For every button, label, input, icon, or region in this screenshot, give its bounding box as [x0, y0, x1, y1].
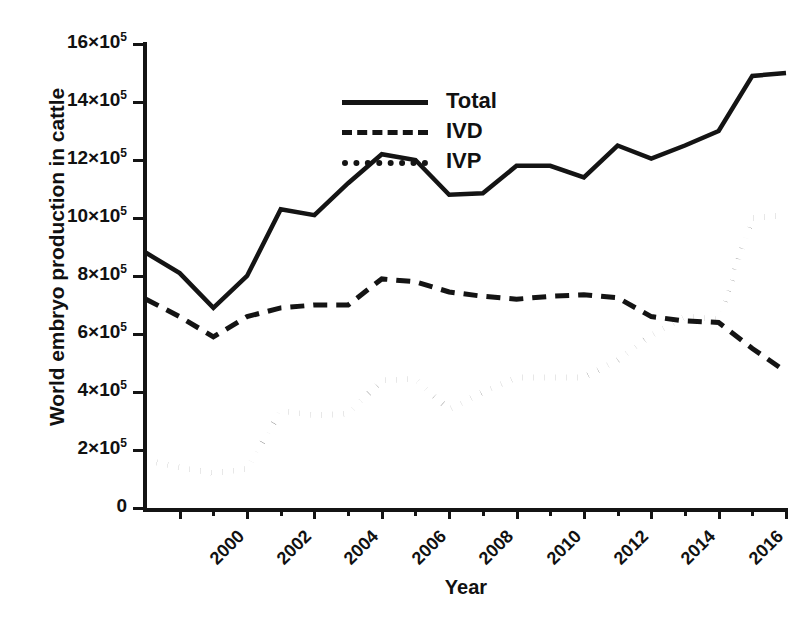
y-tick: 12×105: [133, 159, 144, 162]
y-tick-label: 14×105: [67, 90, 127, 109]
x-tick-minor: [280, 508, 283, 516]
y-tick-label: 16×105: [67, 32, 127, 51]
x-tick-label: 2006: [408, 526, 451, 569]
x-tick-major: [179, 508, 182, 519]
series-line-ivp: [146, 215, 786, 473]
x-tick-minor: [549, 508, 552, 516]
legend-swatch-solid-icon: [342, 100, 428, 105]
y-tick: 14×105: [133, 101, 144, 104]
x-tick-minor: [482, 508, 485, 516]
y-tick: 0: [133, 507, 144, 510]
x-tick-label: 2010: [542, 526, 585, 569]
x-tick-label: 2002: [273, 526, 316, 569]
legend-item-ivp[interactable]: IVP: [342, 148, 552, 178]
x-tick-label: 2008: [475, 526, 518, 569]
x-tick-major: [583, 508, 586, 519]
x-tick-major: [313, 508, 316, 519]
y-tick-label: 10×105: [67, 206, 127, 225]
y-tick-label: 2×105: [78, 438, 127, 457]
x-tick-major: [516, 508, 519, 519]
x-tick-label: 2016: [744, 526, 787, 569]
legend-item-total[interactable]: Total: [342, 88, 552, 118]
y-tick: 2×105: [133, 449, 144, 452]
legend-swatch-dashed-icon: [342, 130, 428, 135]
y-tick-label: 12×105: [67, 148, 127, 167]
y-tick-label: 8×105: [78, 264, 127, 283]
x-tick-major: [650, 508, 653, 519]
y-tick: 10×105: [133, 217, 144, 220]
x-tick-minor: [617, 508, 620, 516]
chart-figure: World embryo production in cattle Year 0…: [0, 0, 808, 626]
y-tick-label: 0: [116, 496, 127, 515]
x-tick-major: [718, 508, 721, 519]
x-axis-line: [143, 508, 788, 512]
y-tick: 16×105: [133, 43, 144, 46]
x-tick-minor: [347, 508, 350, 516]
x-tick-label: 2004: [340, 526, 383, 569]
x-axis-title: Year: [146, 576, 786, 599]
legend-label: IVD: [446, 118, 483, 144]
x-tick-major: [381, 508, 384, 519]
x-tick-minor: [751, 508, 754, 516]
x-tick-minor: [414, 508, 417, 516]
y-tick-label: 6×105: [78, 322, 127, 341]
y-tick-label: 4×105: [78, 380, 127, 399]
series-line-ivd: [146, 279, 786, 372]
x-tick-label: 2000: [205, 526, 248, 569]
x-tick-minor: [684, 508, 687, 516]
y-axis-title: World embryo production in cattle: [45, 47, 69, 467]
x-tick-label: 2014: [677, 526, 720, 569]
y-tick: 6×105: [133, 333, 144, 336]
legend-item-ivd[interactable]: IVD: [342, 118, 552, 148]
x-tick-major: [246, 508, 249, 519]
x-tick-minor: [212, 508, 215, 516]
plot-area: 02×1054×1056×1058×10510×10512×10514×1051…: [146, 44, 786, 508]
x-tick-major: [448, 508, 451, 519]
legend-swatch-dotted-icon: [342, 160, 428, 166]
legend-label: IVP: [446, 148, 481, 174]
x-tick-major: [785, 508, 788, 519]
x-tick-label: 2012: [610, 526, 653, 569]
y-tick: 4×105: [133, 391, 144, 394]
chart-legend: TotalIVDIVP: [342, 88, 552, 178]
y-tick: 8×105: [133, 275, 144, 278]
legend-label: Total: [446, 88, 497, 114]
